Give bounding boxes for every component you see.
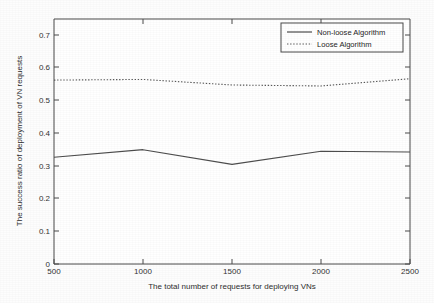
y-axis-title: The success ratio of deployment of VN re… [15,56,24,226]
y-axis-tick-labels: 0 0.1 0.2 0.3 0.4 0.5 0.6 0.7 [39,31,51,269]
plot-area-background [54,19,410,264]
figure-container: 0 0.1 0.2 0.3 0.4 0.5 0.6 0.7 500 1000 1… [0,0,434,303]
x-tick-label-0: 500 [47,267,61,276]
y-tick-label-3: 0.3 [39,162,51,171]
x-tick-label-2: 1500 [223,267,241,276]
x-tick-label-1: 1000 [134,267,152,276]
y-tick-label-7: 0.7 [39,31,51,40]
x-tick-label-3: 2000 [312,267,330,276]
y-tick-label-4: 0.4 [39,129,51,138]
legend-label-loose-algorithm: Loose Algorithm [317,40,371,49]
x-tick-label-4: 2500 [401,267,419,276]
y-tick-label-5: 0.5 [39,96,51,105]
x-axis-tick-labels: 500 1000 1500 2000 2500 [47,267,419,276]
x-axis-title: The total number of requests for deployi… [148,282,316,291]
legend-label-non-loose-algorithm: Non-loose Algorithm [317,28,385,37]
line-chart: 0 0.1 0.2 0.3 0.4 0.5 0.6 0.7 500 1000 1… [0,0,434,303]
y-tick-label-2: 0.2 [39,194,51,203]
y-tick-label-6: 0.6 [39,63,51,72]
chart-legend: Non-loose Algorithm Loose Algorithm [281,23,403,52]
y-tick-label-1: 0.1 [39,227,51,236]
